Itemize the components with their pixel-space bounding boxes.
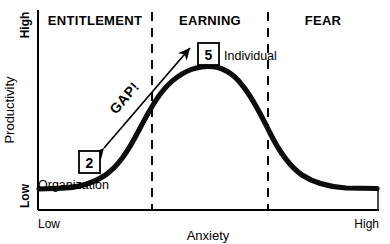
chart-background — [0, 0, 390, 244]
x-axis-title: Anxiety — [187, 228, 230, 243]
individual-marker-label: Individual — [224, 49, 277, 63]
organization-marker-label: Organization — [38, 178, 109, 192]
individual-marker-number: 5 — [205, 47, 213, 63]
chart-svg: GAP! ENTITLEMENT EARNING FEAR 2 Organiza… — [0, 0, 390, 244]
y-axis-title: Productivity — [2, 76, 17, 144]
zone-heading-fear: FEAR — [305, 13, 342, 28]
x-axis-low-label: Low — [38, 217, 60, 231]
organization-marker-number: 2 — [86, 155, 94, 171]
y-axis-low-label: Low — [18, 183, 32, 208]
y-axis-high-label: High — [18, 12, 32, 39]
zone-heading-earning: EARNING — [179, 13, 241, 28]
x-axis-high-label: High — [354, 217, 379, 231]
performance-anxiety-chart: GAP! ENTITLEMENT EARNING FEAR 2 Organiza… — [0, 0, 390, 244]
zone-heading-entitlement: ENTITLEMENT — [48, 13, 142, 28]
